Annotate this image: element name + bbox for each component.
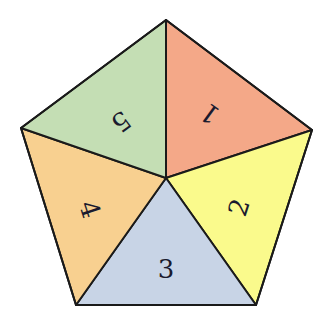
sector-label-3: 3 bbox=[158, 254, 175, 284]
pentagon-diagram: 12345 bbox=[0, 0, 322, 329]
